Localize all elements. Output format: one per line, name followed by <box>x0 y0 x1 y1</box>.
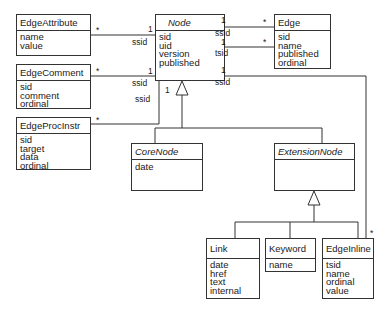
class-name: Link <box>207 239 259 259</box>
multiplicity-many: * <box>96 26 99 35</box>
role-label-ssid: ssid <box>132 38 147 47</box>
attribute: ordinal <box>20 100 87 109</box>
class-name: EdgeInline <box>323 239 373 259</box>
attribute: internal <box>210 287 256 296</box>
attribute: value <box>326 287 370 296</box>
multiplicity-many: * <box>370 229 373 238</box>
class-name: Node <box>156 15 224 31</box>
class-link: Link date href text internal <box>206 238 260 299</box>
multiplicity-one: 1 <box>221 66 226 75</box>
class-extensionnode: ExtensionNode <box>274 143 355 191</box>
class-edgeattribute: EdgeAttribute name value <box>16 14 91 56</box>
role-label-ssid: ssid <box>132 79 147 88</box>
attribute: published <box>159 59 221 68</box>
class-name: CoreNode <box>132 144 202 160</box>
generalization-arrow-node <box>176 81 188 95</box>
multiplicity-many: * <box>263 18 266 27</box>
role-label-tsid: tsid <box>215 49 228 58</box>
multiplicity-one: 1 <box>221 16 226 25</box>
role-label-ssid: ssid <box>135 95 150 104</box>
multiplicity-one: 1 <box>148 67 153 76</box>
attribute: value <box>20 42 87 51</box>
multiplicity-one: 1 <box>148 25 153 34</box>
class-edgeinline: EdgeInline tsid name ordinal value <box>322 238 374 299</box>
class-name: ExtensionNode <box>275 144 354 160</box>
multiplicity-many: * <box>96 67 99 76</box>
class-keyword: Keyword name <box>265 238 316 272</box>
attribute: ordinal <box>278 59 327 68</box>
role-label-ssid: ssid <box>215 78 230 87</box>
class-corenode: CoreNode date <box>131 143 203 191</box>
class-name: EdgeProcInstr <box>17 118 90 134</box>
class-edgecomment: EdgeComment sid comment ordinal <box>16 64 91 109</box>
multiplicity-many: * <box>263 38 266 47</box>
class-edge: Edge sid name published ordinal <box>274 14 331 69</box>
attribute: date <box>135 163 199 172</box>
class-edgeprocinstr: EdgeProcInstr sid target data ordinal <box>16 117 91 170</box>
class-name: Keyword <box>266 239 315 259</box>
multiplicity-many: * <box>96 116 99 125</box>
class-name: EdgeAttribute <box>17 15 90 31</box>
attribute: ordinal <box>20 162 87 171</box>
generalization-arrow-extensionnode <box>308 191 320 205</box>
class-name: EdgeComment <box>17 65 90 81</box>
multiplicity-one: 1 <box>165 86 170 95</box>
multiplicity-one: 1 <box>221 38 226 47</box>
attribute: name <box>269 261 312 270</box>
class-name: Edge <box>275 15 330 31</box>
